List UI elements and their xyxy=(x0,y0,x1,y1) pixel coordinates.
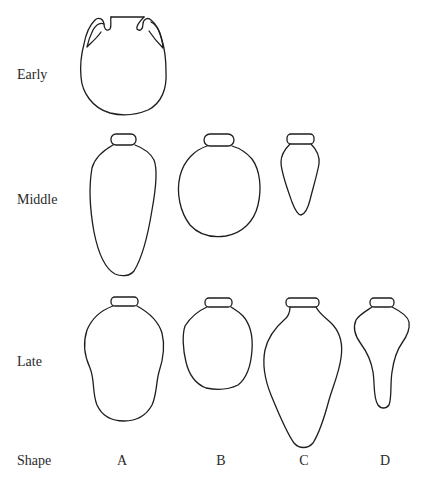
vessel-late-a xyxy=(85,297,164,421)
typology-figure: Early Middle Late Shape A B C D xyxy=(0,0,425,487)
vessel-drawings xyxy=(0,0,425,487)
column-label-a: A xyxy=(117,454,127,468)
column-header-shape: Shape xyxy=(17,454,51,468)
vessel-late-d xyxy=(355,298,410,408)
row-label-late: Late xyxy=(17,355,42,369)
vessel-middle-a xyxy=(90,134,156,276)
vessel-middle-b xyxy=(178,134,260,237)
row-label-early: Early xyxy=(17,68,47,82)
column-label-c: C xyxy=(299,454,308,468)
vessel-middle-c xyxy=(281,134,319,215)
row-label-middle: Middle xyxy=(17,193,57,207)
column-label-d: D xyxy=(380,454,390,468)
vessel-late-b xyxy=(183,298,252,389)
vessel-late-c xyxy=(264,298,342,448)
column-label-b: B xyxy=(216,454,225,468)
vessel-early-a xyxy=(81,17,166,115)
